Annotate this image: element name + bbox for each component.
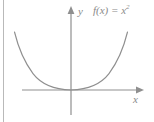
function-formula: f(x) = x2: [93, 3, 130, 17]
parabola-figure: y x f(x) = x2: [0, 0, 154, 122]
arrow-up-icon: [68, 6, 75, 14]
formula-exponent: 2: [126, 3, 130, 11]
figure-canvas: y x f(x) = x2: [0, 0, 154, 122]
formula-base: f(x) = x: [93, 4, 126, 17]
x-axis-label: x: [132, 93, 138, 105]
y-axis-label: y: [77, 5, 83, 17]
